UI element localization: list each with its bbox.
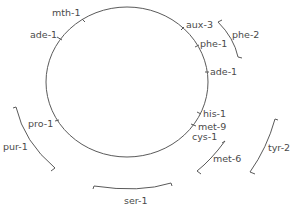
- marker-label: mth-1: [52, 7, 80, 18]
- marker-label: pro-1: [28, 118, 53, 129]
- region-label: tyr-2: [268, 142, 290, 153]
- region-met-6: met-6: [197, 141, 241, 174]
- marker-label: cys-1: [192, 131, 217, 142]
- chromosome-circle: [46, 7, 208, 157]
- region-bracket: [13, 107, 55, 171]
- marker-pro-1: pro-1: [28, 118, 59, 129]
- region-label: ser-1: [124, 195, 148, 206]
- marker-mth-1: mth-1: [52, 7, 85, 22]
- genetic-map: mth-1 ade-1 aux-3 phe-1 ade-1 his-1 met-…: [0, 0, 292, 206]
- region-label: phe-2: [232, 29, 259, 40]
- marker-cys-1: cys-1: [192, 131, 217, 142]
- marker-label: phe-1: [200, 38, 227, 49]
- marker-label: his-1: [203, 108, 226, 119]
- region-bracket: [93, 183, 172, 189]
- region-label: met-6: [213, 153, 241, 164]
- marker-aux-3: aux-3: [181, 19, 213, 30]
- marker-his-1: his-1: [197, 108, 226, 119]
- marker-label: ade-1: [30, 29, 57, 40]
- region-tyr-2: tyr-2: [250, 119, 290, 174]
- marker-label: aux-3: [186, 19, 213, 30]
- marker-label: ade-1: [210, 66, 237, 77]
- marker-ade-1-right: ade-1: [205, 66, 237, 77]
- region-pur-1: pur-1: [3, 107, 55, 171]
- marker-phe-1: phe-1: [195, 38, 227, 49]
- marker-tick: [82, 19, 85, 22]
- marker-ade-1-left: ade-1: [30, 29, 62, 40]
- region-ser-1: ser-1: [93, 183, 172, 206]
- marker-tick: [55, 120, 59, 121]
- region-label: pur-1: [3, 141, 28, 152]
